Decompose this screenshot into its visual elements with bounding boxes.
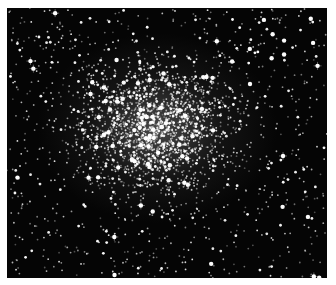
star-field xyxy=(7,8,327,278)
star-cluster-image xyxy=(7,8,327,278)
